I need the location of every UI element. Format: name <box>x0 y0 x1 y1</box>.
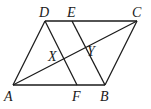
label-X: X <box>47 49 57 64</box>
label-Y: Y <box>87 44 97 59</box>
segments <box>13 21 137 85</box>
label-D: D <box>38 5 49 20</box>
segment-BC <box>105 21 137 85</box>
label-F: F <box>71 89 81 104</box>
label-A: A <box>3 89 13 104</box>
segment-AC <box>13 21 137 85</box>
label-E: E <box>66 5 76 20</box>
segment-DA <box>13 21 45 85</box>
label-B: B <box>100 89 109 104</box>
label-C: C <box>132 5 142 20</box>
parallelogram-diagram: DECXYAFB <box>0 0 151 109</box>
